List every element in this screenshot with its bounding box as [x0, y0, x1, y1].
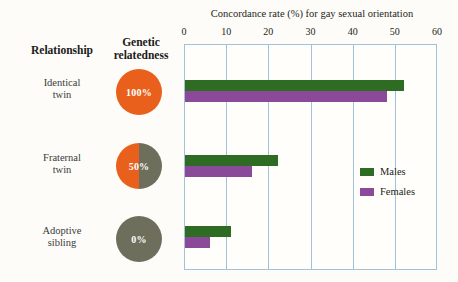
- genetic-relatedness-pie-identical-twin: 100%: [116, 69, 162, 115]
- column-header-genetic-relatedness: Genetic relatedness: [104, 36, 178, 62]
- chart-axis-title: Concordance rate (%) for gay sexual orie…: [170, 8, 454, 19]
- legend-label-females: Females: [380, 186, 415, 197]
- legend-swatch-males-icon: [360, 168, 374, 176]
- chart-legend: Males Females: [360, 166, 415, 206]
- row-label-line-1: Identical: [44, 77, 81, 88]
- bar-females-identical-twin: [185, 91, 387, 102]
- x-axis-tick-60: 60: [422, 26, 452, 37]
- gridline-40: [353, 45, 354, 269]
- bar-females-fraternal-twin: [185, 166, 252, 177]
- legend-label-males: Males: [380, 166, 406, 177]
- row-label-identical-twin: Identical twin: [14, 77, 110, 102]
- pie-value-label: 50%: [116, 161, 162, 172]
- row-label-line-2: twin: [53, 164, 72, 175]
- genetic-relatedness-line-1: Genetic: [122, 36, 160, 48]
- x-axis-tick-30: 30: [296, 26, 326, 37]
- x-axis-tick-40: 40: [338, 26, 368, 37]
- legend-item-males: Males: [360, 166, 415, 177]
- genetic-relatedness-pie-adoptive-sibling: 0%: [116, 216, 162, 262]
- row-label-fraternal-twin: Fraternal twin: [14, 152, 110, 177]
- legend-item-females: Females: [360, 186, 415, 197]
- pie-value-label: 0%: [116, 234, 162, 245]
- row-label-line-2: twin: [53, 89, 72, 100]
- x-axis-tick-50: 50: [380, 26, 410, 37]
- row-label-line-1: Adoptive: [42, 225, 81, 236]
- bar-females-adoptive-sibling: [185, 237, 210, 248]
- genetic-relatedness-pie-fraternal-twin: 50%: [116, 143, 162, 189]
- legend-swatch-females-icon: [360, 188, 374, 196]
- genetic-relatedness-line-2: relatedness: [114, 49, 169, 61]
- row-label-line-1: Fraternal: [43, 152, 81, 163]
- row-label-line-2: sibling: [48, 237, 77, 248]
- concordance-rate-figure: Relationship Genetic relatedness Identic…: [0, 0, 458, 282]
- bar-males-fraternal-twin: [185, 155, 278, 166]
- row-label-adoptive-sibling: Adoptive sibling: [14, 225, 110, 250]
- bar-males-identical-twin: [185, 80, 404, 91]
- chart-plot-area: [184, 44, 437, 270]
- bar-males-adoptive-sibling: [185, 226, 231, 237]
- gridline-50: [395, 45, 396, 269]
- pie-value-label: 100%: [116, 87, 162, 98]
- x-axis-tick-20: 20: [253, 26, 283, 37]
- column-header-relationship: Relationship: [14, 44, 110, 57]
- gridline-30: [311, 45, 312, 269]
- x-axis-tick-0: 0: [169, 26, 199, 37]
- x-axis-tick-10: 10: [211, 26, 241, 37]
